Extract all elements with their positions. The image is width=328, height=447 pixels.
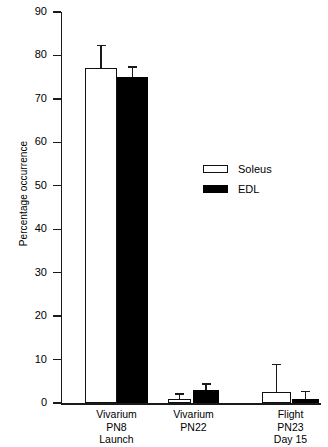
x-axis-line	[61, 403, 321, 405]
legend-item-soleus: Soleus	[203, 159, 272, 179]
y-tick-0	[53, 402, 61, 403]
legend-swatch-edl	[203, 185, 228, 193]
bar-soleus-group-1	[85, 68, 117, 403]
y-tick-80	[53, 55, 61, 56]
legend-label-soleus: Soleus	[238, 164, 272, 175]
y-tick-20	[53, 315, 61, 316]
y-tick-30	[53, 272, 61, 273]
error-bar-cap-soleus-group-1	[97, 45, 106, 46]
y-tick-60	[53, 142, 61, 143]
y-tick-label-90: 90	[7, 6, 47, 17]
error-bar-cap-edl-group-2	[202, 383, 211, 384]
bar-edl-group-2	[193, 390, 219, 403]
y-axis-title: Percentage occurrence	[18, 109, 29, 279]
y-tick-40	[53, 229, 61, 230]
error-bar-stem-soleus-group-1	[100, 45, 101, 69]
x-group-label-3: Flight PN23 Day 15	[241, 408, 328, 446]
error-bar-cap-edl-group-3	[301, 391, 310, 392]
error-bar-cap-soleus-group-3	[272, 364, 281, 365]
y-tick-label-20: 20	[7, 310, 47, 321]
y-tick-label-30: 30	[7, 267, 47, 278]
y-tick-70	[53, 98, 61, 99]
bar-soleus-group-2	[168, 399, 191, 403]
y-tick-label-40: 40	[7, 223, 47, 234]
error-bar-stem-soleus-group-3	[276, 364, 277, 392]
y-tick-label-0: 0	[7, 397, 47, 408]
y-tick-label-60: 60	[7, 136, 47, 147]
plot-area	[61, 12, 321, 403]
bar-chart: Percentage occurrence 908070605040302010…	[0, 0, 328, 447]
y-tick-90	[53, 11, 61, 12]
error-bar-stem-edl-group-1	[132, 66, 133, 77]
y-tick-label-80: 80	[7, 49, 47, 60]
legend-item-edl: EDL	[203, 179, 272, 199]
bar-edl-group-1	[117, 77, 148, 403]
y-tick-50	[53, 185, 61, 186]
y-tick-label-50: 50	[7, 180, 47, 191]
x-group-label-2: Vivarium PN22	[144, 408, 244, 433]
y-tick-10	[53, 359, 61, 360]
legend: SoleusEDL	[203, 159, 272, 199]
y-tick-label-70: 70	[7, 93, 47, 104]
legend-label-edl: EDL	[238, 184, 259, 195]
bar-edl-group-3	[292, 399, 319, 403]
legend-swatch-soleus	[203, 165, 228, 173]
y-tick-label-10: 10	[7, 354, 47, 365]
error-bar-cap-soleus-group-2	[175, 393, 184, 394]
bar-soleus-group-3	[262, 392, 291, 403]
error-bar-cap-edl-group-1	[128, 66, 137, 67]
